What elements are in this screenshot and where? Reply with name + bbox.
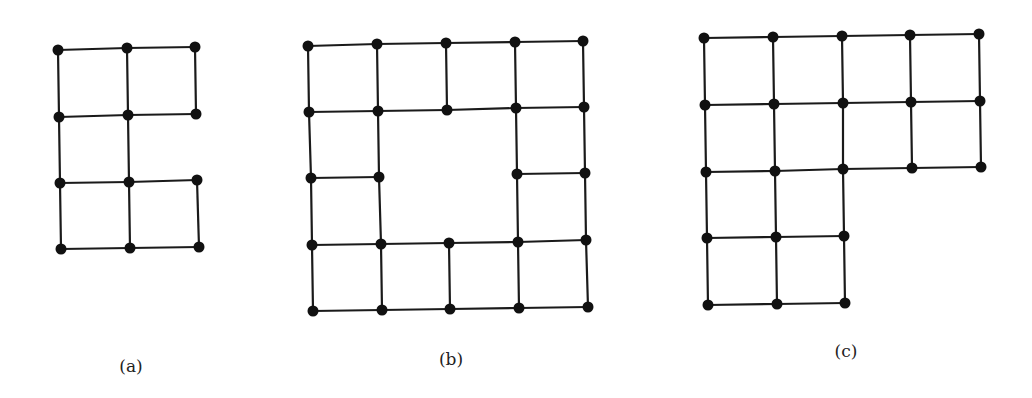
edge bbox=[707, 238, 708, 305]
edge bbox=[517, 173, 585, 174]
edge bbox=[704, 38, 705, 105]
edge bbox=[518, 242, 519, 308]
edge bbox=[446, 43, 447, 110]
edge bbox=[844, 236, 845, 303]
vertex bbox=[906, 97, 917, 108]
vertex bbox=[770, 166, 781, 177]
edge bbox=[773, 36, 842, 37]
edge bbox=[516, 107, 584, 108]
edge bbox=[979, 34, 980, 101]
edge bbox=[381, 244, 382, 310]
vertex bbox=[699, 33, 710, 44]
edge bbox=[312, 245, 313, 311]
edge bbox=[912, 167, 981, 168]
caption-label-c: (c) bbox=[835, 341, 858, 361]
edge bbox=[517, 174, 518, 242]
edge bbox=[773, 37, 774, 104]
vertex bbox=[514, 303, 525, 314]
edge bbox=[705, 104, 774, 105]
vertex bbox=[377, 305, 388, 316]
edge bbox=[311, 177, 379, 178]
edge bbox=[449, 242, 518, 243]
vertex bbox=[769, 99, 780, 110]
edge bbox=[312, 244, 381, 245]
edge bbox=[842, 35, 910, 36]
edge bbox=[911, 101, 980, 102]
vertex bbox=[374, 172, 385, 183]
vertex bbox=[442, 105, 453, 116]
edge bbox=[518, 240, 586, 242]
edge bbox=[583, 41, 584, 107]
vertex bbox=[772, 299, 783, 310]
vertex bbox=[974, 29, 985, 40]
edge bbox=[309, 111, 378, 112]
vertex bbox=[907, 163, 918, 174]
vertex bbox=[580, 168, 591, 179]
vertex bbox=[303, 41, 314, 52]
vertex bbox=[513, 237, 524, 248]
edge bbox=[60, 183, 61, 249]
vertex bbox=[56, 244, 67, 255]
vertex bbox=[124, 177, 135, 188]
edge bbox=[311, 178, 312, 245]
edge bbox=[195, 47, 196, 114]
edge bbox=[446, 42, 515, 43]
vertex bbox=[194, 242, 205, 253]
vertex bbox=[702, 233, 713, 244]
edge bbox=[516, 108, 517, 174]
graph-c bbox=[699, 29, 987, 311]
edge bbox=[382, 309, 450, 310]
edge bbox=[843, 102, 911, 103]
edge bbox=[774, 104, 775, 171]
vertex bbox=[838, 164, 849, 175]
vertex bbox=[122, 43, 133, 54]
vertex bbox=[123, 110, 134, 121]
vertex bbox=[768, 32, 779, 43]
vertex bbox=[306, 173, 317, 184]
edge bbox=[708, 304, 777, 305]
edge bbox=[313, 310, 382, 311]
edge bbox=[910, 34, 979, 35]
vertex bbox=[583, 302, 594, 313]
vertex bbox=[373, 106, 384, 117]
vertex bbox=[975, 96, 986, 107]
vertex bbox=[578, 36, 589, 47]
graph-b bbox=[303, 36, 594, 317]
edge bbox=[378, 111, 379, 177]
edge bbox=[308, 44, 377, 46]
vertex bbox=[838, 98, 849, 109]
vertex bbox=[771, 232, 782, 243]
edge bbox=[129, 180, 197, 182]
edge bbox=[584, 107, 585, 173]
vertex bbox=[55, 178, 66, 189]
edge bbox=[775, 171, 776, 237]
edge bbox=[129, 182, 130, 248]
edge bbox=[127, 47, 195, 48]
vertex bbox=[905, 30, 916, 41]
edge bbox=[706, 172, 707, 238]
edge bbox=[450, 308, 519, 309]
edge bbox=[308, 46, 309, 112]
vertex bbox=[581, 235, 592, 246]
edge bbox=[910, 35, 911, 102]
vertex bbox=[125, 243, 136, 254]
graph-a bbox=[53, 42, 205, 255]
edge bbox=[911, 102, 912, 168]
edge bbox=[378, 110, 447, 111]
edge bbox=[377, 44, 378, 111]
edge bbox=[61, 248, 130, 249]
edge bbox=[130, 247, 199, 248]
vertex bbox=[445, 304, 456, 315]
vertex bbox=[444, 238, 455, 249]
edge bbox=[585, 173, 586, 240]
edge bbox=[58, 48, 127, 50]
edge bbox=[843, 169, 844, 236]
vertex bbox=[53, 45, 64, 56]
edge bbox=[59, 117, 60, 183]
edge bbox=[704, 37, 773, 38]
vertex bbox=[191, 109, 202, 120]
vertex bbox=[192, 175, 203, 186]
edge bbox=[449, 243, 450, 309]
vertex bbox=[307, 240, 318, 251]
vertex bbox=[441, 38, 452, 49]
